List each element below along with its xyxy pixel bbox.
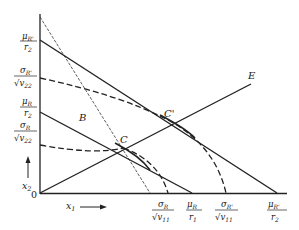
x1-arrowhead-icon bbox=[100, 205, 107, 210]
svg-text:σR: σR bbox=[20, 120, 31, 131]
svg-text:σR: σR bbox=[158, 199, 169, 210]
budget-line-r-prime bbox=[40, 40, 277, 193]
x-tick-sigma-r-v11: σR √v11 bbox=[152, 199, 174, 223]
point-label-e: E bbox=[247, 70, 256, 81]
x2-label: x2 bbox=[22, 180, 32, 193]
svg-text:μR': μR' bbox=[268, 199, 280, 210]
svg-text:r2: r2 bbox=[24, 108, 32, 119]
expansion-path-line bbox=[40, 84, 251, 193]
svg-text:r2: r2 bbox=[24, 42, 32, 53]
svg-text:r1: r1 bbox=[189, 212, 197, 223]
svg-text:μR': μR' bbox=[22, 31, 34, 42]
thin-dashed-line bbox=[40, 17, 150, 193]
risk-curve-r-prime bbox=[40, 78, 226, 193]
svg-text:√v11: √v11 bbox=[215, 212, 233, 223]
x-tick-mu-r-prime-r2: μR' r2 bbox=[267, 199, 287, 223]
x-tick-sigma-r-prime-v11: σR' √v11 bbox=[215, 199, 238, 223]
svg-text:μR: μR bbox=[187, 199, 198, 210]
x-tick-mu-r-r1: μR r1 bbox=[186, 199, 202, 223]
x1-label: x1 bbox=[66, 200, 76, 213]
point-label-b: B bbox=[78, 112, 86, 123]
y-tick-mu-r-prime-r2: μR' r2 bbox=[20, 31, 37, 53]
tangent-segment-c bbox=[115, 143, 150, 170]
y-tick-sigma-r-v22: σR √v22 bbox=[14, 120, 37, 144]
point-label-c: C bbox=[120, 134, 128, 145]
svg-text:σR': σR' bbox=[221, 199, 233, 210]
svg-text:r2: r2 bbox=[271, 212, 279, 223]
point-label-c-prime: C' bbox=[164, 108, 174, 119]
svg-text:μR: μR bbox=[22, 96, 33, 107]
svg-text:σR': σR' bbox=[20, 65, 32, 76]
svg-text:√v22: √v22 bbox=[14, 133, 32, 144]
svg-text:√v22: √v22 bbox=[14, 78, 32, 89]
y-tick-mu-r-r2: μR r2 bbox=[20, 96, 37, 119]
x2-arrowhead-icon bbox=[26, 156, 31, 163]
origin-label: 0 bbox=[31, 189, 37, 200]
diagram-canvas: B C C' E 0 x2 x1 μR' r2 σR' √v22 μR r2 σ… bbox=[0, 0, 299, 230]
y-tick-sigma-r-prime-v22: σR' √v22 bbox=[14, 65, 37, 89]
svg-text:√v11: √v11 bbox=[152, 212, 170, 223]
